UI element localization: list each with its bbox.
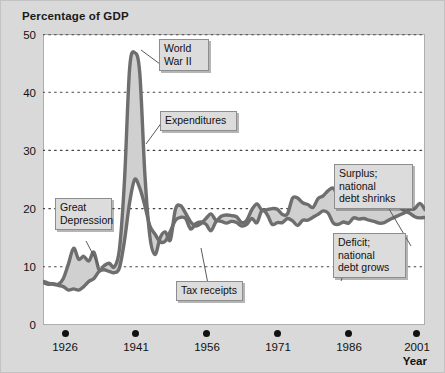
y-tick-50: 50 <box>8 29 36 41</box>
x-tick-1971: 1971 <box>251 341 305 353</box>
x-tick-1956: 1956 <box>180 341 234 353</box>
y-tick-10: 10 <box>8 261 36 273</box>
x-tick-dot-1971 <box>274 330 281 337</box>
annotation-world-war-ii: World War II <box>159 39 209 71</box>
chart-figure: Percentage of GDP 0 10 20 30 40 50 1926 … <box>0 0 445 373</box>
chart-title: Percentage of GDP <box>22 10 129 22</box>
x-tick-1941: 1941 <box>109 341 163 353</box>
y-tick-20: 20 <box>8 203 36 215</box>
annotation-tax-receipts: Tax receipts <box>176 281 243 301</box>
annotation-surplus: Surplus; national debt shrinks <box>334 164 413 209</box>
x-tick-1986: 1986 <box>322 341 376 353</box>
annotation-deficit: Deficit; national debt grows <box>333 233 406 278</box>
x-tick-2001: 2001 <box>390 341 444 353</box>
x-tick-dot-1986 <box>345 330 352 337</box>
x-tick-dot-1941 <box>132 330 139 337</box>
y-tick-40: 40 <box>8 87 36 99</box>
x-tick-dot-1956 <box>203 330 210 337</box>
x-tick-1926: 1926 <box>38 341 92 353</box>
annotation-expenditures: Expenditures <box>160 111 237 131</box>
y-tick-0: 0 <box>8 319 36 331</box>
x-tick-dot-2001 <box>413 330 420 337</box>
annotation-great-depression: Great Depression <box>55 198 112 230</box>
x-tick-dot-1926 <box>62 330 69 337</box>
x-axis-label: Year <box>403 355 427 367</box>
y-tick-30: 30 <box>8 145 36 157</box>
gridlines <box>43 35 425 267</box>
leader-world-war-ii <box>141 50 160 64</box>
